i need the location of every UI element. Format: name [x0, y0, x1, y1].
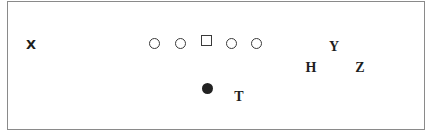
player-h-label: H	[306, 61, 317, 75]
lineman-circle-icon	[251, 38, 262, 49]
center-square-icon	[201, 35, 212, 46]
player-y-label: Y	[329, 40, 339, 54]
lineman-circle-icon	[149, 38, 160, 49]
player-x-label: X	[26, 38, 36, 51]
lineman-circle-icon	[226, 38, 237, 49]
player-z-label: Z	[355, 61, 364, 75]
lineman-circle-icon	[175, 38, 186, 49]
quarterback-filled-circle-icon	[202, 83, 213, 94]
player-t-label: T	[234, 90, 243, 104]
